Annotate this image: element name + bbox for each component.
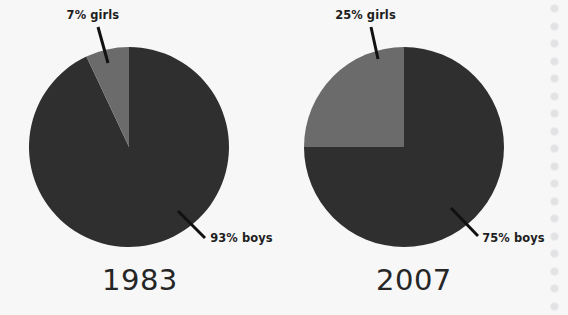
binding-hole xyxy=(550,109,559,118)
slice-label-girls-2007: 25% girls xyxy=(335,8,396,21)
binding-hole xyxy=(550,144,559,153)
binding-hole xyxy=(550,92,559,101)
binding-hole xyxy=(550,39,559,48)
binding-hole xyxy=(550,127,559,136)
pie-1983 xyxy=(29,27,229,247)
pie-chart-figure: 7% girls 93% boys 25% girls 75% boys 198… xyxy=(0,0,568,315)
binding-hole xyxy=(550,284,559,293)
pie-charts-canvas xyxy=(0,0,568,315)
binding-hole xyxy=(550,162,559,171)
pie-slice-girls-2007 xyxy=(304,47,404,147)
binding-hole xyxy=(550,249,559,258)
binding-hole xyxy=(550,22,559,31)
binding-hole xyxy=(550,74,559,83)
binding-hole xyxy=(550,57,559,66)
binding-hole xyxy=(550,302,559,311)
slice-label-boys-1983: 93% boys xyxy=(210,231,272,244)
binding-hole xyxy=(550,214,559,223)
binding-hole xyxy=(550,197,559,206)
pie-2007 xyxy=(304,27,504,247)
binding-hole xyxy=(550,179,559,188)
slice-label-boys-2007: 75% boys xyxy=(482,231,544,244)
slice-label-girls-1983: 7% girls xyxy=(67,8,120,21)
binding-hole xyxy=(550,267,559,276)
year-caption-2007: 2007 xyxy=(376,266,452,295)
binding-hole xyxy=(550,4,559,13)
spiral-binding-holes xyxy=(542,0,568,315)
year-caption-1983: 1983 xyxy=(102,266,178,295)
binding-hole xyxy=(550,232,559,241)
